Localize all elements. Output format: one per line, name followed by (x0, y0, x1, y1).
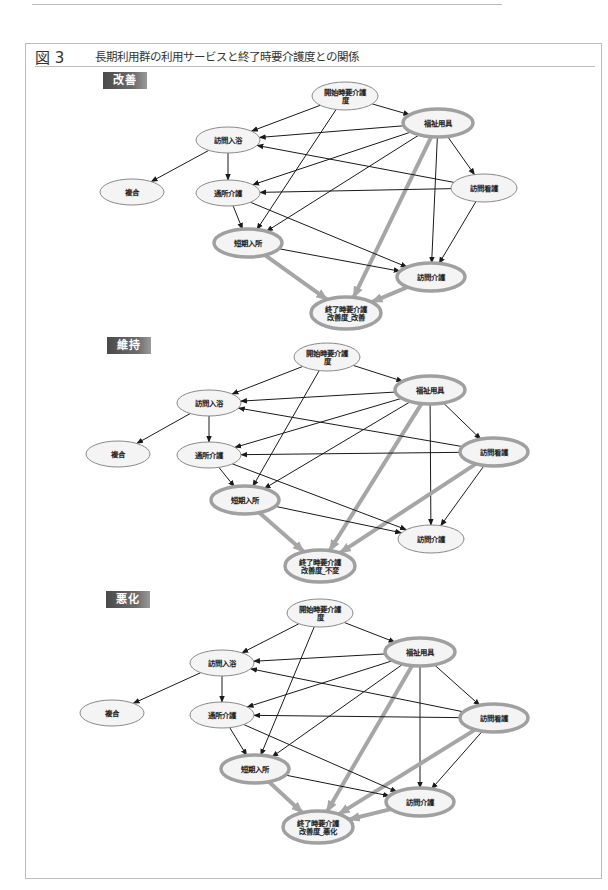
edge-nurse-to-day (260, 189, 451, 193)
node-multi: 複合 (86, 441, 150, 467)
edge-day-to-short (233, 206, 242, 229)
node-label: 訪問看護 (480, 714, 509, 723)
edge-welfare-to-day (253, 132, 411, 185)
edge-day-to-short (219, 467, 234, 486)
edge-welfare-to-bath (254, 654, 386, 661)
node-label: 複合 (124, 188, 140, 197)
edge-welfare-to-day (247, 661, 392, 707)
node-label: 複合 (110, 450, 126, 459)
edge-welfare-to-day (235, 398, 402, 447)
network-diagrams: 開始時要介護度福祉用具訪問入浴訪問看護複合通所介護短期入所訪問介護終了時要介護改… (0, 0, 608, 890)
node-label: 福祉用具 (415, 386, 445, 395)
edge-day-to-short (230, 728, 247, 756)
node-nurse: 訪問看護 (460, 704, 528, 732)
node-end: 終了時要介護改善度_悪化 (283, 811, 353, 843)
node-home: 訪問介護 (386, 788, 454, 816)
edge-welfare-to-bath (241, 392, 396, 401)
node-short: 短期入所 (214, 229, 282, 257)
node-label: 改善度_悪化 (299, 827, 339, 836)
node-label: 福祉用具 (423, 119, 453, 128)
node-nurse: 訪問看護 (451, 174, 517, 202)
node-home: 訪問介護 (398, 525, 464, 553)
node-label: 通所介護 (195, 451, 224, 460)
node-label: 度 (342, 96, 350, 105)
edge-nurse-to-home (439, 202, 476, 264)
node-day: 通所介護 (177, 442, 241, 468)
edge-welfare-to-short (264, 402, 410, 489)
edge-welfare-to-nurse (434, 665, 479, 706)
node-label: 訪問看護 (470, 184, 499, 193)
edge-welfare-to-short (267, 135, 420, 231)
node-day: 通所介護 (196, 180, 260, 206)
edge-home-to-end (349, 809, 391, 819)
edge-bath-to-multi (151, 150, 209, 181)
node-welfare: 福祉用具 (385, 638, 455, 666)
node-welfare: 福祉用具 (395, 376, 465, 404)
edge-short-to-home (279, 249, 400, 271)
edge-short-to-end (265, 255, 327, 299)
node-day: 通所介護 (190, 702, 254, 728)
node-short: 短期入所 (211, 486, 279, 514)
node-end: 終了時要介護改善度_改善 (311, 297, 381, 329)
edge-bath-to-multi (133, 673, 200, 704)
edge-nurse-to-bath (251, 669, 464, 712)
node-label: 訪問介護 (406, 798, 435, 807)
edge-nurse-to-day (241, 452, 460, 454)
node-label: 訪問看護 (480, 448, 509, 457)
node-label: 訪問入浴 (214, 136, 243, 145)
edge-bath-to-multi (137, 414, 190, 444)
node-label: 訪問入浴 (208, 659, 237, 668)
node-home: 訪問介護 (397, 263, 465, 291)
node-label: 短期入所 (231, 496, 260, 505)
edge-welfare-to-bath (259, 126, 403, 138)
edge-short-to-end (259, 513, 303, 552)
node-multi: 複合 (100, 179, 164, 205)
edge-start-to-short (253, 371, 319, 487)
node-bath: 訪問入浴 (190, 650, 254, 676)
node-label: 通所介護 (214, 189, 243, 198)
node-nurse: 訪問看護 (460, 438, 528, 466)
node-label: 訪問入浴 (195, 399, 224, 408)
node-welfare: 福祉用具 (403, 109, 473, 137)
edge-start-to-bath (232, 366, 303, 394)
edge-nurse-to-day (254, 715, 460, 717)
node-label: 短期入所 (234, 239, 263, 248)
edge-welfare-to-home (430, 404, 431, 525)
node-bath: 訪問入浴 (177, 390, 241, 416)
node-label: 訪問介護 (417, 273, 446, 282)
node-label: 改善度_不変 (301, 566, 341, 575)
node-end: 終了時要介護改善度_不変 (285, 550, 355, 582)
node-label: 訪問介護 (417, 535, 446, 544)
edge-short-to-home (275, 506, 401, 532)
node-label: 短期入所 (241, 765, 270, 774)
edge-welfare-to-nurse (448, 136, 475, 174)
node-short: 短期入所 (221, 755, 289, 783)
edge-welfare-to-home (432, 137, 438, 263)
node-start: 開始時要介護度 (287, 599, 353, 627)
edge-start-to-bath (251, 105, 320, 131)
node-label: 度 (317, 613, 325, 622)
node-start: 開始時要介護度 (294, 343, 360, 371)
edge-welfare-to-nurse (443, 403, 480, 439)
edge-start-to-welfare (344, 622, 395, 642)
node-label: 通所介護 (208, 711, 237, 720)
edge-start-to-welfare (353, 365, 402, 381)
node-multi: 複合 (80, 700, 144, 726)
edge-start-to-short (257, 109, 336, 229)
node-label: 度 (324, 357, 332, 366)
node-bath: 訪問入浴 (196, 127, 260, 153)
node-label: 改善度_改善 (327, 313, 367, 322)
edge-home-to-end (372, 287, 408, 302)
edge-short-to-end (269, 782, 303, 813)
edge-start-to-welfare (372, 104, 409, 115)
edge-start-to-bath (242, 624, 299, 653)
node-label: 複合 (104, 709, 120, 718)
node-start: 開始時要介護度 (312, 82, 378, 110)
node-label: 福祉用具 (405, 648, 435, 657)
